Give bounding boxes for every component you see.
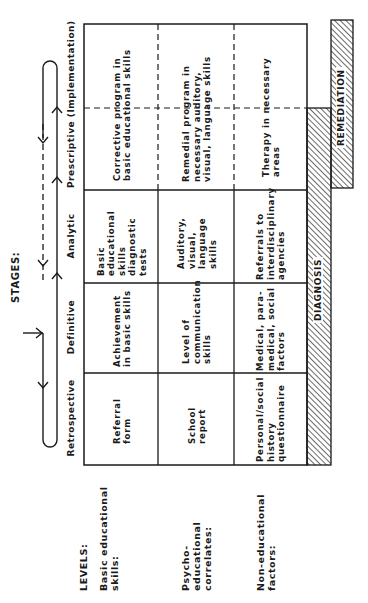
stage-header-retrospective: Retrospective [66,373,76,463]
cell-non-definitive: Medical, para-medical, social factors [236,285,306,371]
cell-non-analytic: Referrals to interdisciplinary agencies [236,191,306,281]
remediation-label: REMEDIATION [336,67,346,148]
level-label-basic: Basic educational skills: [98,481,120,591]
cell-psycho-analytic: Auditory, visual, language skills [160,191,234,281]
cell-non-prescriptive: Therapy in necessary areas [236,26,306,188]
level-label-non: Non-educational factors: [255,491,277,591]
cell-basic-prescriptive: Corrective program in basic educational … [86,26,158,188]
cell-psycho-prescriptive: Remedial program in necessary auditory, … [160,26,234,188]
stages-title: STAGES: [10,252,21,303]
stage-header-analytic: Analytic [66,191,76,281]
cell-psycho-definitive: Level of communication skills [160,285,234,371]
cell-basic-analytic: Basic educational skills diagnostic test… [86,191,158,281]
diagnosis-label: DIAGNOSIS [313,257,323,323]
cell-basic-definitive: Achievement in basic skills [86,285,158,371]
diagram: STAGES: Retrospective Definitive Analyti… [0,0,368,603]
stage-header-prescriptive: Prescriptive (Implementation) [66,22,76,188]
levels-title: LEVELS: [78,544,89,591]
cell-basic-retrospective: Referral form [86,375,158,463]
cell-psycho-retrospective: School report [160,375,234,463]
level-label-psycho: Psycho-educational correlates: [180,511,213,591]
cell-non-retrospective: Personal/social history questionnaire [236,375,306,463]
stage-header-definitive: Definitive [66,283,76,371]
